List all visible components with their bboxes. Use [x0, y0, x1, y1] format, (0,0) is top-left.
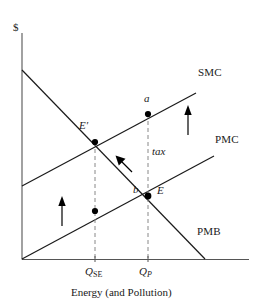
point-dot-pmc-qse — [92, 208, 98, 214]
x-tick-label-qp: QP — [139, 266, 152, 277]
x-tick-qse-main: Q — [85, 265, 93, 277]
x-tick-qse-sub: SE — [93, 270, 102, 279]
point-label-b: b — [133, 184, 139, 195]
diagram-canvas — [0, 0, 258, 308]
x-tick-label-qse: QSE — [85, 266, 102, 277]
pmc-curve — [22, 156, 214, 259]
x-axis-title: Energy (and Pollution) — [71, 287, 172, 298]
y-axis-label: $ — [13, 22, 19, 33]
smc-curve — [22, 93, 196, 186]
pmb-curve-label: PMB — [197, 226, 221, 237]
pmb-curve — [22, 70, 205, 259]
point-label-e-prime: E′ — [79, 120, 88, 131]
pmc-curve-label: PMC — [215, 134, 239, 145]
point-dot-a — [145, 111, 151, 117]
point-label-e: E — [157, 185, 164, 196]
x-tick-qp-sub: P — [147, 270, 152, 279]
smc-curve-label: SMC — [198, 67, 222, 78]
point-label-a: a — [144, 93, 150, 104]
x-tick-qp-main: Q — [139, 265, 147, 277]
arrow-up-right-region — [184, 105, 191, 135]
point-dot-e — [145, 193, 152, 200]
externality-diagram: $ SMC PMC PMB E′ a b E tax QSE QP Energy… — [0, 0, 258, 308]
tax-annotation-label: tax — [152, 146, 165, 157]
point-dot-e-prime — [92, 139, 98, 145]
arrow-up-left-region — [58, 196, 65, 226]
